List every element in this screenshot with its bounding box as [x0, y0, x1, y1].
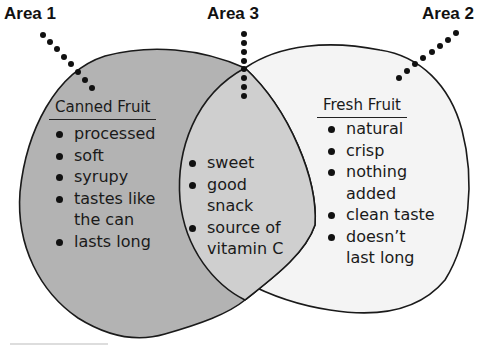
list-item: sweet: [185, 152, 283, 174]
list-item: syrupy: [52, 166, 155, 188]
bullet-icon: [328, 212, 335, 219]
bullet-icon: [56, 131, 63, 138]
bullet-icon: [56, 239, 63, 246]
list-item: natural: [324, 118, 435, 140]
bullet-icon: [328, 148, 335, 155]
bullet-icon: [328, 126, 335, 133]
area2-heading: Fresh Fruit: [323, 96, 401, 114]
area2-heading-text: Fresh Fruit: [323, 96, 401, 114]
list-item: crisp: [324, 140, 435, 162]
list-item: lasts long: [52, 231, 155, 253]
list-item-continuation: the can: [52, 209, 155, 231]
bullet-icon: [328, 234, 335, 241]
list-item: doesn’t: [324, 226, 435, 248]
bullet-icon: [189, 160, 196, 167]
area3-leader: [241, 31, 247, 99]
area3-label: Area 3: [207, 4, 259, 24]
area2-label: Area 2: [422, 4, 474, 24]
bullet-icon: [189, 182, 196, 189]
area1-heading-text: Canned Fruit: [55, 98, 150, 116]
list-item-continuation: vitamin C: [185, 238, 283, 260]
area3-list: sweet good snack source of vitamin C: [185, 152, 283, 260]
bullet-icon: [189, 225, 196, 232]
list-item: processed: [52, 123, 155, 145]
bullet-icon: [56, 196, 63, 203]
list-item: good: [185, 174, 283, 196]
bullet-icon: [56, 153, 63, 160]
list-item: nothing: [324, 161, 435, 183]
area1-label: Area 1: [4, 4, 56, 24]
bullet-icon: [328, 169, 335, 176]
list-item: source of: [185, 217, 283, 239]
list-item-continuation: snack: [185, 195, 283, 217]
list-item: tastes like: [52, 188, 155, 210]
list-item-continuation: last long: [324, 247, 435, 269]
area2-list: natural crisp nothing added clean taste …: [324, 118, 435, 269]
list-item: clean taste: [324, 204, 435, 226]
area1-list: processed soft syrupy tastes like the ca…: [52, 123, 155, 252]
bullet-icon: [56, 174, 63, 181]
area1-heading: Canned Fruit: [55, 98, 150, 116]
list-item: soft: [52, 145, 155, 167]
list-item-continuation: added: [324, 183, 435, 205]
area1-heading-underline: [49, 119, 156, 121]
